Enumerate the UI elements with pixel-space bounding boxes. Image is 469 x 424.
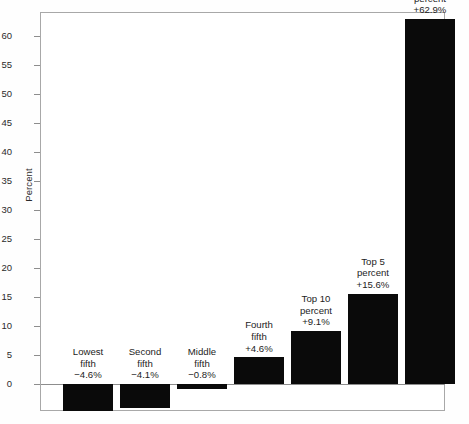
bar-middle-fifth	[177, 384, 227, 389]
bar-label-line2: percent	[337, 267, 409, 279]
bar-label-top-10-percent: Top 10percent+9.1%	[280, 293, 352, 328]
y-tick-label: 40	[0, 145, 12, 158]
bar-fourth-fifth	[234, 357, 284, 384]
y-tick-label: 0	[0, 377, 12, 390]
bar-label-line2: fifth	[166, 358, 238, 370]
y-tick-label: 50	[0, 87, 12, 100]
bar-label-line1: Top 10	[280, 293, 352, 305]
bar-label-line1: Top 5	[337, 256, 409, 268]
bar-label-line2: percent	[280, 305, 352, 317]
y-tick-label: 35	[0, 174, 12, 187]
bar-chart: Percent 051015202530354045505560 Lowestf…	[0, 0, 469, 424]
y-tick-label: 5	[0, 348, 12, 361]
bar-lowest-fifth	[63, 384, 113, 411]
bar-second-fifth	[120, 384, 170, 408]
bar-label-value: +4.6%	[223, 343, 295, 355]
bar-label-value: +62.9%	[394, 4, 466, 16]
bar-top-1-percent	[405, 19, 455, 384]
bar-top-10-percent	[291, 331, 341, 384]
y-tick-label: 20	[0, 261, 12, 274]
y-tick-label: 10	[0, 319, 12, 332]
bar-label-top-1-percent: Top 1percent+62.9%	[394, 0, 466, 16]
y-tick-label: 55	[0, 58, 12, 71]
y-tick-label: 60	[0, 29, 12, 42]
bar-label-value: −0.8%	[166, 369, 238, 381]
y-tick-label: 45	[0, 116, 12, 129]
bar-top-5-percent	[348, 294, 398, 384]
y-tick-label: 15	[0, 290, 12, 303]
bar-label-value: +9.1%	[280, 316, 352, 328]
y-axis-ticks: 051015202530354045505560	[12, 0, 40, 424]
bar-label-value: +15.6%	[337, 279, 409, 291]
bar-label-top-5-percent: Top 5percent+15.6%	[337, 256, 409, 291]
bar-label-line2: fifth	[223, 331, 295, 343]
y-tick-label: 30	[0, 203, 12, 216]
y-tick-label: 25	[0, 232, 12, 245]
